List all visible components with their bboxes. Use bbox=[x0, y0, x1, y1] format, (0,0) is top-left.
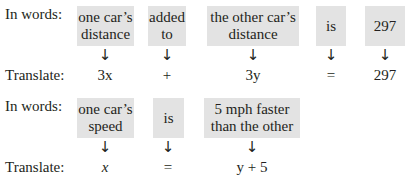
word-box-one-cars-speed: one car’s speed bbox=[77, 98, 134, 138]
word-text: is bbox=[163, 110, 173, 127]
word-text: is bbox=[326, 18, 336, 35]
word-text: 297 bbox=[374, 18, 397, 35]
down-arrow-icon: ↓ bbox=[157, 48, 177, 63]
translation-3x: 3x bbox=[85, 67, 125, 84]
translate-label-1: Translate: bbox=[5, 67, 64, 84]
word-text: 5 mph faster than the other bbox=[204, 101, 300, 135]
translation-equals: = bbox=[311, 67, 351, 84]
word-box-5mph-faster: 5 mph faster than the other bbox=[204, 98, 300, 138]
down-arrow-icon: ↓ bbox=[95, 48, 115, 63]
down-arrow-icon: ↓ bbox=[243, 48, 263, 63]
translation-plus: + bbox=[147, 67, 187, 84]
down-arrow-icon: ↓ bbox=[375, 48, 395, 63]
word-box-other-cars-distance: the other car’s distance bbox=[207, 6, 299, 46]
word-text: one car’s distance bbox=[77, 9, 134, 43]
in-words-label-2: In words: bbox=[5, 98, 62, 115]
down-arrow-icon: ↓ bbox=[242, 140, 262, 155]
in-words-label-1: In words: bbox=[5, 6, 62, 23]
down-arrow-icon: ↓ bbox=[95, 140, 115, 155]
down-arrow-icon: ↓ bbox=[158, 140, 178, 155]
translation-equals-2: = bbox=[148, 159, 188, 176]
word-box-one-cars-distance: one car’s distance bbox=[77, 6, 134, 46]
word-box-is-2: is bbox=[153, 98, 184, 138]
translation-3y: 3y bbox=[233, 67, 273, 84]
down-arrow-icon: ↓ bbox=[321, 48, 341, 63]
translate-label-2: Translate: bbox=[5, 159, 64, 176]
word-box-is: is bbox=[316, 6, 346, 46]
word-text: added to bbox=[148, 9, 186, 43]
translation-x: x bbox=[85, 159, 125, 176]
translation-297: 297 bbox=[365, 67, 405, 84]
word-text: the other car’s distance bbox=[207, 9, 299, 43]
word-box-added-to: added to bbox=[148, 6, 186, 46]
translation-y-plus-5: y + 5 bbox=[222, 159, 282, 176]
word-text: one car’s speed bbox=[77, 101, 134, 135]
word-box-297: 297 bbox=[365, 6, 405, 46]
